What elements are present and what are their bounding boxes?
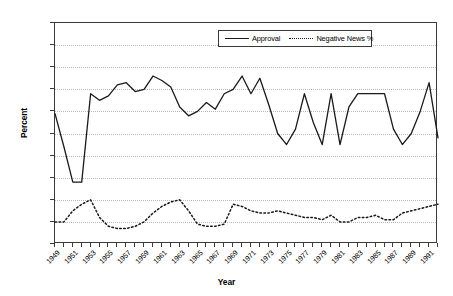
chart-legend: Approval Negative News %	[218, 30, 372, 47]
x-tick-mark	[303, 243, 304, 247]
legend-line-dashed-icon	[289, 38, 313, 39]
x-tick-mark	[286, 243, 287, 247]
x-tick-mark	[437, 243, 438, 247]
x-tick-mark	[54, 243, 55, 247]
x-tick-mark	[250, 243, 251, 247]
x-tick-mark	[134, 243, 135, 247]
x-tick-mark	[63, 243, 64, 247]
x-tick-mark	[170, 243, 171, 247]
x-tick-mark	[330, 243, 331, 247]
x-tick-mark	[214, 243, 215, 247]
x-tick-mark	[268, 243, 269, 247]
x-tick-mark	[188, 243, 189, 247]
x-tick-mark	[348, 243, 349, 247]
x-tick-mark	[277, 243, 278, 247]
x-axis-title: Year	[0, 277, 453, 287]
x-tick-mark	[232, 243, 233, 247]
legend-label-negative-news: Negative News %	[316, 35, 373, 42]
legend-line-solid-icon	[225, 38, 249, 39]
x-tick-mark	[241, 243, 242, 247]
x-tick-mark	[72, 243, 73, 247]
x-tick-mark	[90, 243, 91, 247]
x-tick-mark	[339, 243, 340, 247]
x-tick-mark	[125, 243, 126, 247]
x-tick-mark	[428, 243, 429, 247]
x-tick-mark	[366, 243, 367, 247]
x-tick-mark	[357, 243, 358, 247]
x-tick-mark	[116, 243, 117, 247]
legend-item-negative-news: Negative News %	[289, 35, 373, 42]
chart-container: Percent 0102030405060708090100 194919511…	[0, 0, 453, 296]
x-tick-mark	[321, 243, 322, 247]
x-tick-mark	[205, 243, 206, 247]
x-tick-mark	[384, 243, 385, 247]
x-tick-mark	[294, 243, 295, 247]
x-tick-mark	[375, 243, 376, 247]
x-tick-mark	[152, 243, 153, 247]
legend-item-approval: Approval	[225, 35, 280, 42]
x-tick-mark	[179, 243, 180, 247]
x-tick-mark	[419, 243, 420, 247]
x-tick-mark	[81, 243, 82, 247]
x-tick-mark	[99, 243, 100, 247]
x-tick-mark	[259, 243, 260, 247]
x-tick-mark	[223, 243, 224, 247]
x-tick-mark	[401, 243, 402, 247]
x-tick-mark	[197, 243, 198, 247]
x-tick-mark	[143, 243, 144, 247]
x-tick-mark	[312, 243, 313, 247]
legend-label-approval: Approval	[252, 35, 280, 42]
x-tick-mark	[161, 243, 162, 247]
x-tick-mark	[392, 243, 393, 247]
x-tick-mark	[410, 243, 411, 247]
x-tick-mark	[107, 243, 108, 247]
